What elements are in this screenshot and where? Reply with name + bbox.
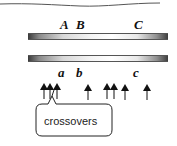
arrow-up-icon [143,84,151,100]
gene-label-C: C [134,18,143,31]
lower-chromosome [28,55,168,62]
callout-label: crossovers [44,115,97,127]
callout-bubble [34,88,116,140]
gene-label-A: A [60,18,69,31]
gene-label-B: B [76,18,85,31]
arrow-up-icon [121,84,129,100]
upper-chromosome [28,33,168,40]
wavy-divider-line [0,0,177,12]
